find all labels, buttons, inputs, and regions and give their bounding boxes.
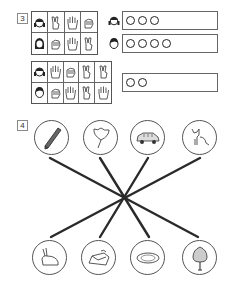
boy-icon	[32, 83, 48, 104]
victory-hand-icon	[48, 12, 64, 33]
open-hand-icon	[64, 83, 80, 104]
open-hand-icon	[65, 33, 81, 54]
picture-bed[interactable]	[81, 240, 116, 275]
answer-circle	[138, 39, 147, 48]
girl-pigtails-icon	[108, 13, 120, 27]
picture-ginkgo-leaf[interactable]	[83, 120, 118, 155]
ginkgo-leaf-icon	[88, 125, 114, 151]
answer-box-girl[interactable]	[122, 11, 218, 30]
answer-circle	[126, 16, 135, 25]
line-leaf-plate	[100, 158, 149, 237]
picture-rabbit[interactable]	[32, 240, 67, 275]
boy-icon	[108, 36, 120, 50]
open-hand-icon	[48, 62, 64, 83]
line-pencil-tree	[50, 158, 198, 237]
picture-tree[interactable]	[182, 240, 217, 275]
fist-icon	[48, 33, 64, 54]
open-hand-icon	[95, 83, 111, 104]
plate-icon	[135, 245, 161, 271]
answer-circle	[138, 78, 147, 87]
answer-circle	[126, 78, 135, 87]
answer-circle	[150, 16, 159, 25]
bed-icon	[86, 245, 112, 271]
victory-hand-icon	[79, 83, 95, 104]
picture-car[interactable]	[130, 120, 165, 155]
fist-icon	[48, 83, 64, 104]
open-hand-icon	[65, 12, 81, 33]
victory-hand-icon	[95, 62, 111, 83]
picture-pencil[interactable]	[34, 120, 69, 155]
exercise-4-number: 4	[17, 120, 28, 131]
victory-hand-icon	[81, 33, 97, 54]
answer-circle	[162, 39, 171, 48]
picture-cat[interactable]	[182, 120, 217, 155]
cat-icon	[187, 125, 213, 151]
line-cat-rabbit	[51, 158, 200, 237]
exercise-3-number: 3	[17, 13, 28, 24]
tree-icon	[187, 245, 213, 271]
hand-game-grid-top	[31, 11, 98, 55]
fist-icon	[64, 62, 80, 83]
answer-box-result[interactable]	[122, 73, 218, 92]
picture-plate[interactable]	[130, 240, 165, 275]
girl-pigtails-icon	[32, 62, 48, 83]
victory-hand-icon	[79, 62, 95, 83]
answer-box-boy[interactable]	[122, 34, 218, 53]
girl-pigtails-icon	[32, 12, 48, 33]
car-icon	[135, 125, 161, 151]
girl-long-hair-icon	[32, 33, 48, 54]
rabbit-icon	[37, 245, 63, 271]
fist-icon	[81, 12, 97, 33]
hand-game-grid-bottom	[31, 61, 112, 104]
pencil-icon	[39, 125, 65, 151]
line-car-bed	[100, 158, 148, 237]
answer-circle	[138, 16, 147, 25]
answer-circle	[126, 39, 135, 48]
answer-circle	[150, 39, 159, 48]
